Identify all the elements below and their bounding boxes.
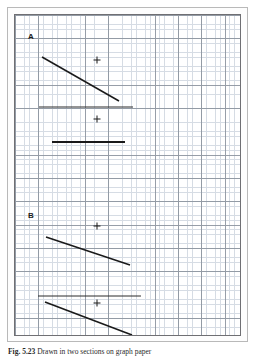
cross-marker-b-cross-upper <box>94 223 101 230</box>
figure-caption: Fig. 5.23 Drawn in two sections on graph… <box>8 346 251 356</box>
panel-a-strokes <box>39 57 133 143</box>
drawn-strokes-layer <box>15 15 241 336</box>
figure-root: A B Fig. 5.23 Drawn in two sections on g… <box>0 0 257 356</box>
stroke-B-diagonal-lower <box>45 302 132 335</box>
panel-label-a: A <box>28 33 34 41</box>
panel-label-b: B <box>28 212 34 220</box>
cross-marker-a-cross-upper <box>94 57 101 64</box>
caption-number: Fig. 5.23 <box>8 347 35 356</box>
stroke-A-diagonal-upper <box>42 57 119 101</box>
cross-marker-b-cross-lower <box>94 300 101 307</box>
panel-b-strokes <box>38 223 141 336</box>
cross-marker-a-cross-lower <box>94 116 101 123</box>
stroke-B-diagonal-upper <box>46 237 130 265</box>
caption-text: Drawn in two sections on graph paper <box>35 347 151 356</box>
graph-paper-panel: A B <box>14 14 241 336</box>
